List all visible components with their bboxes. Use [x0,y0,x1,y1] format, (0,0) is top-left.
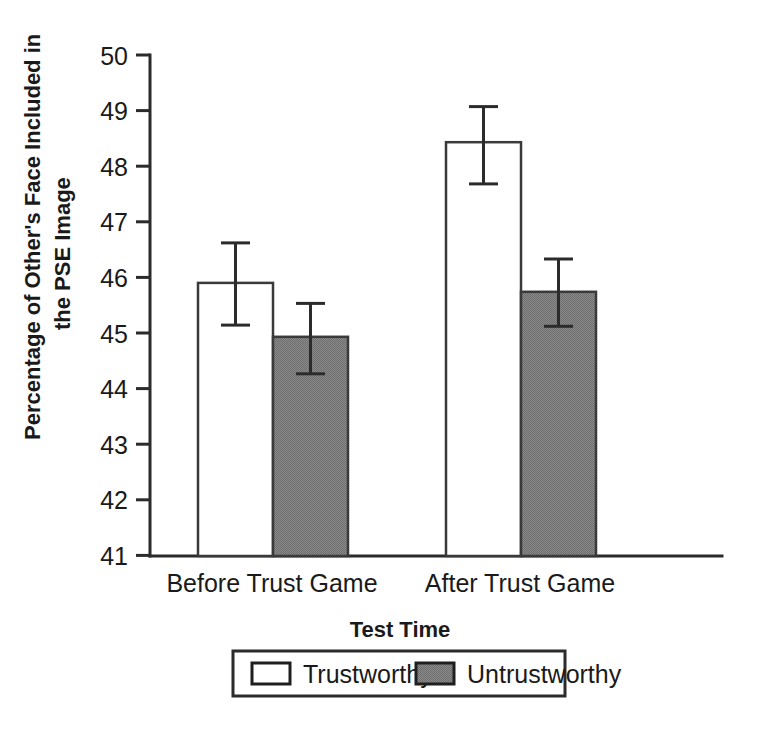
legend-label-trustworthy: Trustworthy [303,660,433,688]
x-tick-label-after-trust-game: After Trust Game [425,569,615,597]
y-tick-label-50: 50 [100,42,128,70]
y-axis-title-line-1: Percentage of Other's Face Included in [20,34,45,440]
legend-entry-trustworthy[interactable]: Trustworthy [252,660,433,688]
legend-label-untrustworthy: Untrustworthy [467,660,622,688]
x-tick-label-before-trust-game: Before Trust Game [166,569,377,597]
bar-chart-figure: 50 49 48 47 46 45 44 43 42 41 Percentage… [0,0,775,735]
y-tick-label-47: 47 [100,208,128,236]
bar-trustworthy-after[interactable] [446,142,521,556]
y-tick-label-49: 49 [100,97,128,125]
open-square-swatch-icon [252,663,290,684]
y-tick-label-48: 48 [100,153,128,181]
gray-square-swatch-icon [416,663,454,684]
chart-canvas: 50 49 48 47 46 45 44 43 42 41 Percentage… [0,0,775,735]
y-tick-label-43: 43 [100,431,128,459]
y-tick-label-46: 46 [100,264,128,292]
legend: Trustworthy Untrustworthy [233,651,622,696]
y-axis-title-line-2: the PSE Image [50,177,75,330]
y-tick-label-41: 41 [100,542,128,570]
y-tick-label-44: 44 [100,375,128,403]
y-tick-label-42: 42 [100,486,128,514]
bar-untrustworthy-after[interactable] [521,292,596,556]
y-tick-label-45: 45 [100,320,128,348]
x-axis-title: Test Time [350,617,451,642]
legend-entry-untrustworthy[interactable]: Untrustworthy [416,660,622,688]
